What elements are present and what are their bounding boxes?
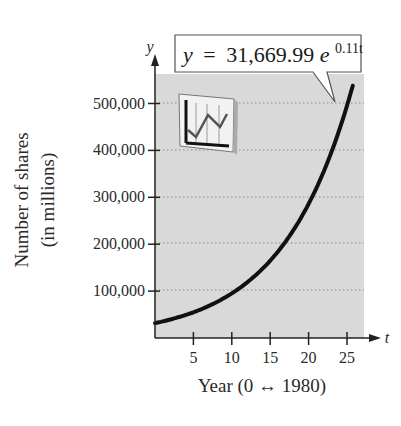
y-axis-title-line1: Number of shares xyxy=(11,132,32,267)
y-tick-label: 200,000 xyxy=(93,235,145,252)
y-tick-labels: 100,000200,000300,000400,000500,000 xyxy=(93,95,145,300)
y-axis-arrow-icon xyxy=(151,54,159,66)
y-tick-label: 300,000 xyxy=(93,188,145,205)
x-tick-label: 20 xyxy=(301,349,317,366)
x-axis-arrow-icon xyxy=(369,334,381,342)
x-tick-label: 15 xyxy=(262,349,278,366)
eq-equals: = xyxy=(203,42,215,67)
y-axis-variable: y xyxy=(144,38,154,56)
x-axis-variable: t xyxy=(385,329,390,346)
x-axis-title: Year (0 ↔ 1980) xyxy=(198,375,326,397)
chart-thumbnail-icon xyxy=(179,94,238,155)
eq-base: e xyxy=(320,42,330,67)
eq-exponent: 0.11t xyxy=(335,41,363,56)
y-tick-label: 400,000 xyxy=(93,141,145,158)
x-tick-label: 25 xyxy=(339,349,355,366)
x-tick-label: 10 xyxy=(224,349,240,366)
y-axis-title-line2: (in millions) xyxy=(37,153,59,247)
x-tick-labels: 510152025 xyxy=(189,349,355,366)
chart: 100,000200,000300,000400,000500,000 5101… xyxy=(0,0,401,426)
y-tick-label: 100,000 xyxy=(93,282,145,299)
y-tick-label: 500,000 xyxy=(93,95,145,112)
eq-lhs: y xyxy=(181,42,193,67)
eq-coefficient: 31,669.99 xyxy=(226,42,314,67)
x-tick-label: 5 xyxy=(189,349,197,366)
